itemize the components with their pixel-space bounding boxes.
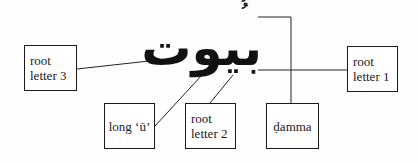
connector-damma (258, 17, 291, 103)
label-text: letter 3 (30, 68, 76, 83)
label-text: ḍamma (273, 119, 311, 134)
label-root-letter-1: root letter 1 (347, 46, 398, 92)
label-root-letter-2: root letter 2 (185, 103, 236, 149)
label-text: long ‘ū’ (109, 119, 151, 134)
label-long-u: long ‘ū’ (104, 103, 155, 149)
label-damma: ḍamma (266, 103, 319, 149)
arabic-word: بيوت (158, 20, 262, 76)
label-text: root (191, 111, 235, 126)
label-text: root (353, 54, 397, 69)
arabic-word-diagram: ُ ُ بيوت root letter 3 long ‘ū’ root let… (0, 0, 418, 163)
label-text: letter 1 (353, 69, 397, 84)
label-text: root (30, 53, 76, 68)
label-text: letter 2 (191, 126, 235, 141)
connector-root-letter-2 (210, 75, 233, 103)
label-root-letter-3: root letter 3 (24, 45, 77, 91)
